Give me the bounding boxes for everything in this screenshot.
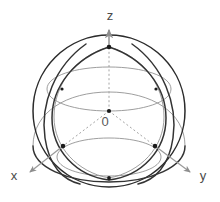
x-axis-label: x — [11, 168, 18, 183]
node-left-upper-cross — [60, 87, 63, 90]
meridian-d-front-arc — [132, 44, 174, 184]
intersection-nodes — [60, 45, 157, 180]
node-right-upper-cross — [154, 87, 157, 90]
node-origin — [107, 109, 111, 113]
origin-to-y-surface-dashed — [109, 111, 155, 146]
node-south-front — [107, 176, 111, 180]
y-axis-label: y — [200, 168, 207, 183]
node-y-axis-surface — [153, 144, 158, 149]
node-x-axis-surface — [61, 144, 66, 149]
sphere-diagram-canvas: z x y 0 — [0, 0, 220, 202]
origin-label: 0 — [101, 114, 108, 129]
node-north-pole — [107, 45, 112, 50]
z-axis-label: z — [107, 8, 114, 23]
sphere-diagram: z x y 0 — [0, 0, 220, 202]
meridian-c-front-arc — [44, 44, 86, 184]
lower-small-circle — [57, 138, 161, 176]
